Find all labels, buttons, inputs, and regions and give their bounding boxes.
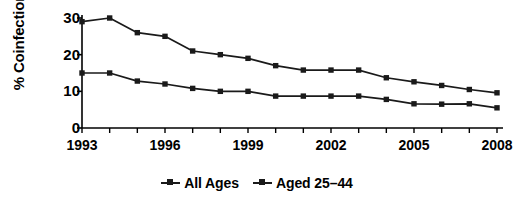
x-axis-tick-label: 1993: [52, 138, 112, 152]
legend-marker-icon: [253, 178, 272, 188]
legend-label-all-ages: All Ages: [184, 175, 239, 191]
coinfection-line-chart: % Coinfection 3020100 All Ages Aged 25–4…: [0, 0, 514, 205]
x-axis-tick-label: 2002: [301, 138, 361, 152]
x-axis-tick-label: 2005: [384, 138, 444, 152]
x-axis-tick-label: 2008: [467, 138, 514, 152]
chart-legend: All Ages Aged 25–44: [0, 175, 514, 191]
legend-item-all-ages: All Ages: [161, 175, 239, 191]
legend-item-aged-25-44: Aged 25–44: [253, 175, 353, 191]
legend-marker-icon: [161, 178, 180, 188]
legend-label-aged-25-44: Aged 25–44: [276, 175, 353, 191]
x-axis-tick-label: 1999: [218, 138, 278, 152]
x-axis-tick-label: 1996: [135, 138, 195, 152]
